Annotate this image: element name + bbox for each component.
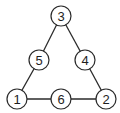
node-1-label: 1 [13, 92, 20, 107]
node-5: 5 [29, 50, 49, 70]
triangle-graph-diagram: 3 5 4 1 6 2 [0, 0, 120, 113]
node-6-label: 6 [57, 92, 64, 107]
node-4: 4 [75, 50, 95, 70]
node-2: 2 [96, 89, 116, 109]
node-4-label: 4 [81, 53, 88, 68]
node-3-label: 3 [57, 9, 64, 24]
node-2-label: 2 [102, 92, 109, 107]
graph-svg: 3 5 4 1 6 2 [0, 0, 120, 113]
node-3: 3 [51, 6, 71, 26]
node-1: 1 [7, 89, 27, 109]
node-5-label: 5 [35, 53, 42, 68]
node-6: 6 [51, 89, 71, 109]
